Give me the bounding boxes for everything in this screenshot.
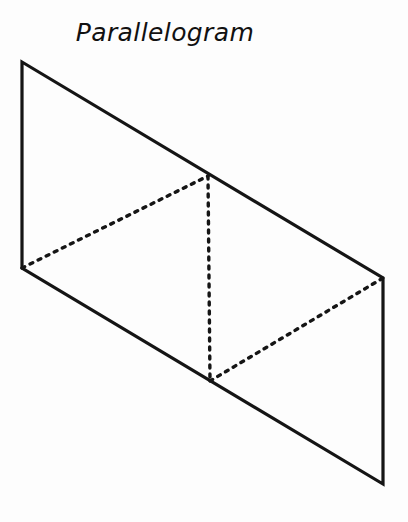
figure-page: Parallelogram (0, 0, 408, 522)
parallelogram-diagram (0, 0, 408, 522)
dashed-altitude-vertical (208, 176, 210, 381)
parallelogram-outline (22, 62, 383, 484)
dashed-diagonal-lower-right (210, 278, 383, 381)
dashed-diagonal-upper-left (22, 176, 208, 268)
